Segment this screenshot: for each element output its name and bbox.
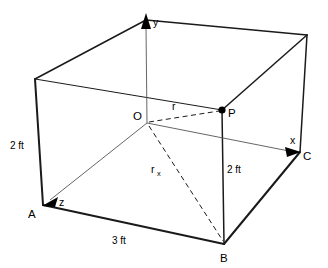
top-edge-back-right [146, 20, 307, 35]
point-label-c: C [303, 150, 311, 162]
dimension-label-height-right: 2 ft [227, 164, 241, 175]
top-edge-back-left [35, 20, 146, 79]
top-edge-front-right [222, 35, 307, 110]
vertical-edge-left [35, 79, 43, 205]
point-label-o: O [133, 110, 142, 122]
vector-label-rx-group: r x [151, 163, 161, 178]
axis-label-z: z [59, 196, 64, 208]
box-bottom-edges [43, 152, 300, 244]
z-axis-line [50, 123, 147, 200]
dimension-label-depth-front: 3 ft [112, 235, 126, 246]
point-label-p: P [228, 107, 236, 119]
vector-label-rx: r [151, 163, 155, 175]
bottom-edge-front-left [43, 205, 224, 244]
box-top-face [35, 20, 307, 110]
x-axis-arrowhead [285, 147, 301, 157]
construction-lines [50, 26, 294, 244]
vertical-edge-front [222, 110, 224, 244]
axis-label-y: y [153, 16, 159, 28]
dimension-label-height-left: 2 ft [10, 140, 24, 151]
vector-rx-line [149, 126, 223, 241]
x-axis-line [147, 123, 294, 152]
y-axis-line [146, 26, 147, 123]
vector-r-line [149, 111, 219, 122]
point-p-marker [218, 106, 225, 113]
top-edge-front-left [35, 79, 222, 110]
vertical-edge-right [300, 35, 307, 152]
point-label-b: B [220, 252, 228, 264]
diagram-canvas: y x z O P A B C r r x 2 ft 2 ft 3 ft [0, 0, 328, 268]
z-axis-arrowhead [42, 197, 58, 207]
vector-label-rx-subscript: x [157, 169, 161, 178]
geometry-diagram: y x z O P A B C r r x 2 ft 2 ft 3 ft [0, 0, 328, 268]
point-label-a: A [28, 208, 36, 220]
axis-label-x: x [290, 134, 296, 146]
vector-label-r: r [172, 100, 176, 112]
